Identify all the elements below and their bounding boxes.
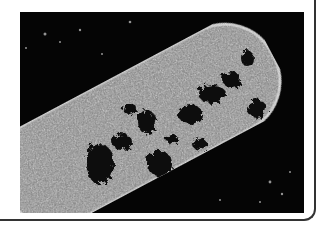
bacterium-micrograph [20,12,304,213]
micrograph-svg [20,12,304,213]
